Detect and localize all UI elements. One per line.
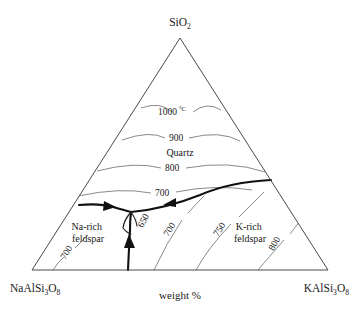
- albite-corner-label: NaAlSi3O8: [10, 282, 61, 297]
- isotherm-label-700-quartz: 700: [155, 188, 170, 198]
- isotherm-label-700-kspar: 700: [161, 221, 177, 239]
- isotherm-1000-line-right: [193, 106, 221, 112]
- isotherm-800-line-right: [186, 165, 265, 172]
- axis-label-weight-percent: weight %: [159, 289, 201, 301]
- isotherm-700-quartz-line: [78, 191, 151, 196]
- cotectic-arrow-bottom: [124, 234, 135, 248]
- field-label-quartz: Quartz: [166, 147, 194, 158]
- orthoclase-corner-label: KAlSi3O8: [304, 282, 350, 297]
- field-label-na-feldspar: Na-rich feldspar: [71, 221, 104, 244]
- ternary-phase-diagram-figure: SiO2 NaAlSi3O8 KAlSi3O8 weight % Quartz …: [0, 0, 359, 315]
- isotherm-label-650-minimum: 650: [136, 212, 152, 229]
- isotherm-label-800: 800: [165, 163, 180, 173]
- isotherm-label-1000: 1000°C: [158, 105, 187, 117]
- quartz-k-feldspar-cotectic: [131, 180, 271, 212]
- field-label-k-feldspar: K-rich feldspar: [234, 221, 267, 244]
- isotherm-label-900: 900: [169, 133, 184, 143]
- silica-apex-label: SiO2: [169, 16, 191, 31]
- isotherm-900-line: [122, 134, 165, 140]
- isotherm-label-750-kspar: 750: [211, 220, 227, 238]
- isotherm-900-line-right: [189, 135, 240, 141]
- isotherm-800-line: [97, 165, 161, 171]
- cotectic-arrow-left: [103, 201, 116, 211]
- isotherm-750-kspar-line-upper: [239, 192, 264, 217]
- isotherm-label-800-kspar: 800: [267, 235, 283, 253]
- phase-diagram-canvas: SiO2 NaAlSi3O8 KAlSi3O8 weight % Quartz …: [0, 0, 359, 315]
- isotherm-label-700-naspar: 700: [58, 244, 74, 262]
